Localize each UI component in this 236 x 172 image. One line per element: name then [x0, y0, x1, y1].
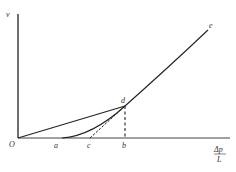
origin-label: O — [9, 140, 15, 149]
y-axis-label: v — [6, 10, 10, 19]
point-e-label: e — [209, 21, 213, 30]
point-d-label: d — [121, 96, 126, 105]
point-a-label: a — [54, 141, 58, 150]
line-o-d — [18, 106, 125, 138]
point-c-label: c — [87, 141, 91, 150]
point-b-label: b — [122, 141, 126, 150]
diagram-canvas: v O a c b d e Δp L — [0, 0, 236, 172]
curve-a-d-e — [62, 30, 208, 138]
x-axis-label-numerator: Δp — [213, 145, 223, 154]
x-axis-label-denominator: L — [216, 155, 222, 164]
